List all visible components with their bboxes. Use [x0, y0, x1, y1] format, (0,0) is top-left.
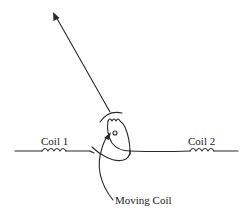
- moving-coil-label: Moving Coil: [115, 194, 172, 206]
- scale-arc: [100, 112, 122, 122]
- moving-coil-meter-diagram: Coil 1 Coil 2 Moving Coil: [0, 0, 251, 218]
- moving-coil: [92, 119, 130, 161]
- coil-1-label: Coil 1: [41, 135, 68, 147]
- coil-1: [15, 149, 94, 154]
- pointer-arrow: [53, 12, 110, 112]
- coil-2: [130, 149, 238, 152]
- coil-2-label: Coil 2: [188, 135, 215, 147]
